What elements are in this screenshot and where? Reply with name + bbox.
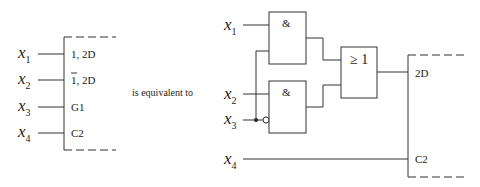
right-circuit: x1 x2 x3 x4 & & ≥ 1 2D C2 (223, 12, 464, 177)
qualifier-1-2d: 1, 2D (71, 48, 96, 60)
left-symbol: x1 x2 x3 x4 1, 2D 1, 2D G1 C2 (17, 37, 116, 150)
wire-x3-to-and1 (256, 51, 269, 120)
input-label-x4: x4 (17, 122, 31, 144)
circuit-input-x4: x4 (223, 149, 237, 171)
wire-and1-to-or (306, 38, 341, 60)
input-label-x3: x3 (17, 96, 31, 118)
and-gate-1-label: & (282, 17, 291, 29)
equivalence-diagram: x1 x2 x3 x4 1, 2D 1, 2D G1 C2 is equival… (0, 0, 480, 187)
input-label-x1: x1 (17, 43, 31, 65)
circuit-input-x2: x2 (223, 84, 237, 106)
qualifier-g1: G1 (71, 101, 84, 113)
flipflop-label-c2: C2 (415, 153, 428, 165)
qualifier-not1-2d: 1, 2D (71, 74, 96, 86)
equivalence-text: is equivalent to (132, 87, 193, 98)
or-gate-label: ≥ 1 (350, 52, 368, 67)
circuit-input-x3: x3 (223, 109, 237, 131)
wire-and2-to-or (306, 85, 341, 107)
inversion-bubble (263, 117, 269, 123)
qualifier-c2: C2 (71, 127, 84, 139)
flipflop-label-2d: 2D (415, 67, 429, 79)
input-label-x2: x2 (17, 69, 31, 91)
and-gate-2-label: & (282, 86, 291, 98)
circuit-input-x1: x1 (223, 15, 237, 37)
